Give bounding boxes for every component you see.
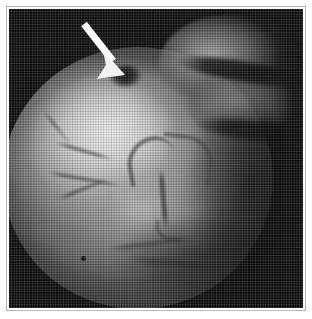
- superior-margin-notch: [109, 65, 143, 91]
- photograph-field: [9, 9, 303, 308]
- focal-dark-spot: [81, 256, 86, 261]
- figure-root: [0, 0, 312, 319]
